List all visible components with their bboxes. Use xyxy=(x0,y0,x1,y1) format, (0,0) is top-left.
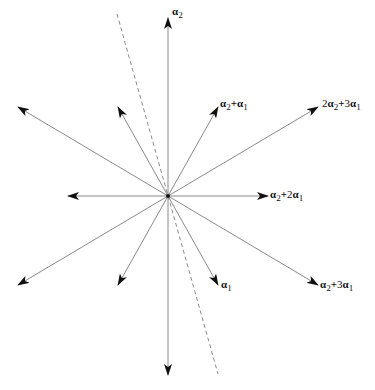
label-alpha2-plus-3alpha1: α2+3α1 xyxy=(320,279,353,293)
vector-neg-alpha2-minus-3alpha1 xyxy=(18,107,168,196)
vector-neg-2alpha2-minus-3alpha1 xyxy=(18,196,168,285)
vector-alpha2-plus-alpha1 xyxy=(168,107,218,196)
vector-alpha2-plus-3alpha1 xyxy=(168,196,318,285)
origin-point xyxy=(166,194,170,198)
label-2alpha2-plus-3alpha1: 2α2+3α1 xyxy=(322,98,361,112)
label-alpha2-plus-2alpha1: α2+2α1 xyxy=(270,189,303,203)
label-subscript: 1 xyxy=(299,193,304,203)
label-subscript: 1 xyxy=(243,102,248,112)
label-alpha2-subscript: 2 xyxy=(178,10,183,20)
vector-neg-alpha1 xyxy=(118,107,168,196)
vector-neg-alpha2-minus-alpha1 xyxy=(118,196,168,285)
label-alpha1: α1 xyxy=(221,279,232,293)
caption-cutoff xyxy=(0,383,375,390)
label-alpha1-subscript: 1 xyxy=(227,283,232,293)
label-alpha2: α2 xyxy=(172,6,183,20)
root-system-diagram xyxy=(0,0,375,390)
vector-alpha1 xyxy=(168,196,218,285)
vector-2alpha2-plus-3alpha1 xyxy=(168,107,318,196)
label-alpha2-plus-alpha1: α2+α1 xyxy=(220,98,248,112)
label-subscript: 1 xyxy=(356,102,361,112)
label-subscript: 1 xyxy=(349,283,354,293)
